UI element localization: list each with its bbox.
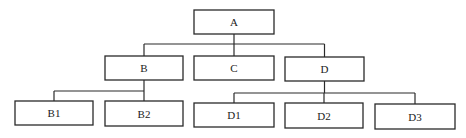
node-label: C xyxy=(230,62,237,74)
node-label: D1 xyxy=(227,109,240,121)
node-d3: D3 xyxy=(375,104,455,129)
node-label: B2 xyxy=(138,108,151,120)
node-label: A xyxy=(230,16,238,28)
node-d1: D1 xyxy=(194,103,274,127)
node-b2: B2 xyxy=(105,101,183,126)
node-label: B1 xyxy=(48,107,61,119)
node-b1: B1 xyxy=(15,101,93,125)
node-b: B xyxy=(105,56,183,80)
node-c: C xyxy=(194,56,274,80)
node-label: D2 xyxy=(317,110,330,122)
node-d2: D2 xyxy=(285,103,363,128)
node-d: D xyxy=(285,57,364,81)
node-label: B xyxy=(140,62,147,74)
tree-diagram: ABCDB1B2D1D2D3 xyxy=(0,0,466,138)
nodes: ABCDB1B2D1D2D3 xyxy=(15,10,455,129)
node-label: D3 xyxy=(408,111,422,123)
node-label: D xyxy=(321,63,329,75)
node-a: A xyxy=(194,10,274,34)
